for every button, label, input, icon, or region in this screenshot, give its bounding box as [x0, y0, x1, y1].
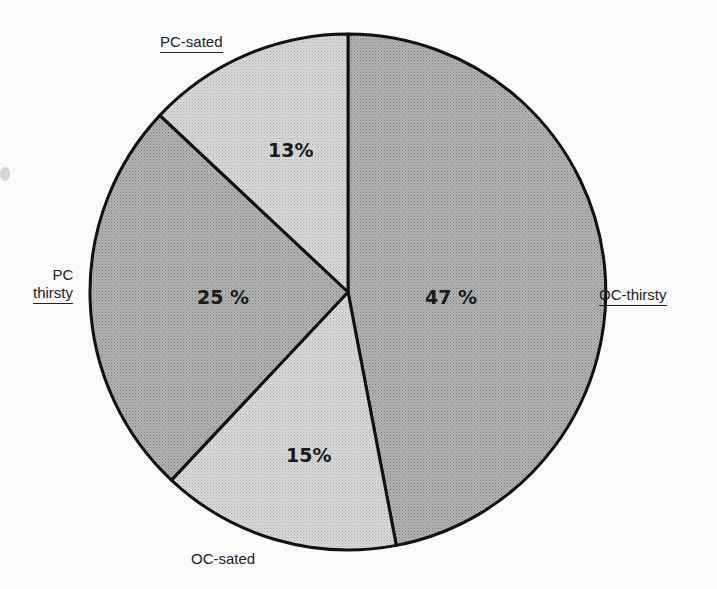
percent-pc-sated: 13% [268, 139, 313, 161]
label-oc-thirsty: OC-thirsty [599, 286, 667, 306]
label-pc-sated: PC-sated [160, 33, 223, 53]
label-pc-thirsty-line2: thirsty [33, 284, 73, 304]
percent-pc-thirsty: 25 % [197, 286, 249, 308]
scan-artifact [0, 167, 10, 181]
percent-oc-thirsty: 47 % [425, 286, 477, 308]
percent-oc-sated: 15% [286, 444, 331, 466]
label-oc-sated: OC-sated [191, 550, 255, 568]
label-pc-thirsty-line1: PC [38, 266, 88, 284]
